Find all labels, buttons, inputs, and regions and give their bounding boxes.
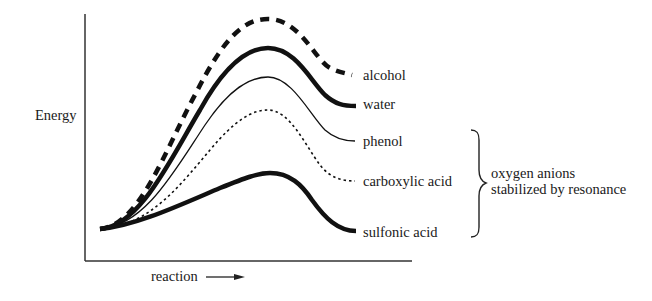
x-axis-label: reaction [151,269,198,284]
arrow-right-icon [206,274,245,280]
bracket-note-line1: oxygen anions [491,166,575,181]
bracket-note-line2: stabilized by resonance [491,182,626,197]
curve-carboxylic-acid [100,110,355,229]
label-water: water [363,97,395,112]
label-sulfonic-acid: sulfonic acid [363,225,438,240]
brace-icon [471,130,486,237]
energy-diagram [0,0,652,301]
label-alcohol: alcohol [363,68,406,83]
curve-alcohol [100,19,352,229]
label-carboxylic-acid: carboxylic acid [363,174,452,189]
y-axis-label: Energy [35,108,77,123]
label-phenol: phenol [363,134,402,149]
